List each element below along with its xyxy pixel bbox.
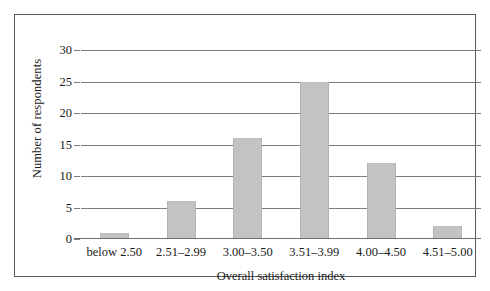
gridline bbox=[81, 82, 481, 83]
x-tick-label: 2.51–2.99 bbox=[156, 246, 206, 259]
y-tick-label: 10 bbox=[60, 170, 73, 183]
bar bbox=[367, 163, 396, 239]
y-tick-mark bbox=[74, 145, 80, 146]
gridline bbox=[81, 176, 481, 177]
gridline bbox=[81, 50, 481, 51]
x-tick-label: 4.51–5.00 bbox=[423, 246, 473, 259]
y-tick-label: 30 bbox=[60, 44, 73, 57]
chart-frame: Number of respondents 051015202530 below… bbox=[14, 14, 476, 277]
y-tick-label: 5 bbox=[66, 201, 72, 214]
y-tick-label: 15 bbox=[60, 138, 73, 151]
bar bbox=[167, 201, 196, 239]
x-axis-line bbox=[74, 238, 481, 239]
x-tick-label: 4.00–4.50 bbox=[356, 246, 406, 259]
y-tick-mark bbox=[74, 50, 80, 51]
x-tick-label: 3.51–3.99 bbox=[289, 246, 339, 259]
y-axis-title: Number of respondents bbox=[30, 34, 45, 204]
chart-figure: Number of respondents 051015202530 below… bbox=[0, 0, 490, 291]
x-tick-label: below 2.50 bbox=[87, 246, 143, 259]
gridline bbox=[81, 208, 481, 209]
y-tick-label: 0 bbox=[66, 233, 72, 246]
bar bbox=[300, 82, 329, 240]
plot-area: 051015202530 below 2.502.51–2.993.00–3.5… bbox=[81, 50, 481, 239]
gridline bbox=[81, 145, 481, 146]
x-tick-label: 3.00–3.50 bbox=[223, 246, 273, 259]
y-tick-mark bbox=[74, 208, 80, 209]
y-tick-mark bbox=[74, 113, 80, 114]
y-tick-label: 20 bbox=[60, 107, 73, 120]
y-tick-mark bbox=[74, 239, 80, 240]
y-tick-label: 25 bbox=[60, 75, 73, 88]
bar bbox=[233, 138, 262, 239]
y-tick-mark bbox=[74, 176, 80, 177]
y-tick-mark bbox=[74, 82, 80, 83]
x-axis-title: Overall satisfaction index bbox=[81, 269, 481, 284]
gridline bbox=[81, 113, 481, 114]
